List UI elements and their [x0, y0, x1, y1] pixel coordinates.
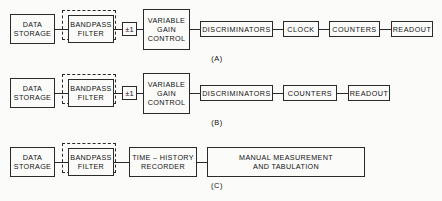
block-label-line: FILTER: [78, 93, 104, 102]
block-manual-measurement-tabulation-c[interactable]: MANUAL MEASUREMENT AND TABULATION: [207, 147, 365, 177]
row-caption-a: (A): [187, 54, 247, 63]
block-label-line: READOUT: [350, 89, 389, 98]
block-label-line: GAIN: [157, 25, 176, 34]
block-label-line: DATA: [23, 20, 43, 29]
wire-b-counters-to-readout: [336, 93, 348, 94]
block-label-line: MANUAL MEASUREMENT: [239, 153, 333, 162]
block-data-storage-a[interactable]: DATA STORAGE: [10, 14, 55, 44]
block-label-line: STORAGE: [14, 29, 51, 38]
block-label-line: RECORDER: [141, 162, 185, 171]
block-bandpass-filter-c[interactable]: BANDPASS FILTER: [68, 148, 114, 176]
block-label-line: GAIN: [157, 89, 176, 98]
block-variable-gain-control-b[interactable]: VARIABLE GAIN CONTROL: [143, 73, 190, 114]
block-label-line: TIME – HISTORY: [132, 153, 194, 162]
block-bandpass-filter-a[interactable]: BANDPASS FILTER: [68, 15, 114, 43]
block-polarity-unit-a[interactable]: ±1: [122, 22, 137, 36]
block-label-line: COUNTERS: [288, 89, 332, 98]
block-label-line: BANDPASS: [70, 84, 111, 93]
block-label-line: STORAGE: [14, 162, 51, 171]
block-label-line: VARIABLE: [148, 80, 185, 89]
wire-a-counters-to-readout: [379, 29, 391, 30]
row-caption-b: (B): [187, 118, 247, 127]
block-clock-a[interactable]: CLOCK: [283, 21, 319, 37]
block-label-line: ±1: [125, 25, 133, 34]
block-label-line: CONTROL: [148, 34, 186, 43]
block-label-line: CLOCK: [287, 25, 314, 34]
row-caption-c: (C): [187, 181, 247, 190]
block-label-line: STORAGE: [14, 93, 51, 102]
block-time-history-recorder-c[interactable]: TIME – HISTORY RECORDER: [129, 147, 197, 177]
block-bandpass-filter-b[interactable]: BANDPASS FILTER: [68, 79, 114, 107]
block-counters-a[interactable]: COUNTERS: [329, 21, 380, 37]
block-label-line: DISCRIMINATORS: [202, 89, 271, 98]
block-label-line: COUNTERS: [332, 25, 376, 34]
block-data-storage-c[interactable]: DATA STORAGE: [10, 147, 55, 177]
block-counters-b[interactable]: COUNTERS: [283, 85, 337, 101]
block-label-line: FILTER: [78, 162, 104, 171]
block-label-line: CONTROL: [148, 98, 186, 107]
block-label-line: AND TABULATION: [253, 162, 319, 171]
block-data-storage-b[interactable]: DATA STORAGE: [10, 78, 55, 108]
block-label-line: BANDPASS: [70, 20, 111, 29]
block-variable-gain-control-a[interactable]: VARIABLE GAIN CONTROL: [143, 9, 190, 50]
block-readout-b[interactable]: READOUT: [348, 85, 390, 101]
block-label-line: BANDPASS: [70, 153, 111, 162]
block-label-line: DATA: [23, 153, 43, 162]
block-label-line: DISCRIMINATORS: [202, 25, 271, 34]
block-label-line: FILTER: [78, 29, 104, 38]
block-label-line: ±1: [125, 89, 133, 98]
block-label-line: DATA: [23, 84, 43, 93]
block-label-line: VARIABLE: [148, 16, 185, 25]
block-discriminators-b[interactable]: DISCRIMINATORS: [200, 85, 273, 101]
block-polarity-unit-b[interactable]: ±1: [122, 86, 137, 100]
block-diagram-figure: DATA STORAGE BANDPASS FILTER ±1 VARIABLE…: [0, 0, 442, 201]
block-readout-a[interactable]: READOUT: [391, 21, 433, 37]
block-discriminators-a[interactable]: DISCRIMINATORS: [200, 21, 273, 37]
block-label-line: READOUT: [393, 25, 432, 34]
